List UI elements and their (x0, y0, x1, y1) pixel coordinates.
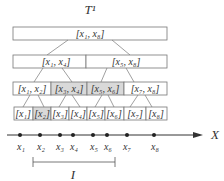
leaf-label: [x₅] (88, 108, 104, 119)
segment-tree-diagram: T¹ [x₁, x₈] [x₁, x₄] [x₅, x₈] [x₁, x₂] [… (0, 0, 224, 181)
point-label: x₁ (16, 141, 25, 152)
leaf-label: [x₄] (70, 108, 86, 119)
axis-label: X (210, 127, 220, 142)
tree-edge (95, 95, 102, 107)
leaf-label: [x₁] (15, 108, 31, 119)
tree-edge (34, 68, 43, 82)
axis-arrow-icon (193, 132, 203, 138)
tree-edge (145, 95, 152, 107)
point-label: x₂ (36, 141, 45, 152)
node-label: [x₅, x₆] (91, 83, 120, 94)
tree-title: T¹ (84, 2, 95, 17)
node-label: [x₁, x₈] (76, 28, 105, 39)
tree-edge (101, 68, 107, 82)
tree-edge (112, 40, 130, 55)
point-label: x₄ (69, 141, 78, 152)
tree-edge (130, 95, 138, 107)
tree-edge (47, 40, 68, 55)
interval-label: I (70, 167, 76, 181)
tree-edge (108, 95, 114, 107)
point-label: x₇ (122, 141, 131, 152)
point-label: x₃ (55, 141, 64, 152)
tree-edge (126, 68, 134, 82)
leaf-label: [x₇] (127, 108, 143, 119)
leaf-label: [x₂] (34, 108, 50, 119)
leaf-label: [x₃] (52, 108, 68, 119)
point-label: x₈ (150, 141, 159, 152)
node-label: [x₁, x₂] (18, 83, 47, 94)
node-label: [x₁, x₄] (42, 56, 71, 67)
node-label: [x₃, x₄] (55, 83, 84, 94)
node-label: [x₅, x₈] (112, 56, 141, 67)
node-label: [x₇, x₈] (131, 83, 160, 94)
interval (33, 157, 115, 167)
point-label: x₅ (89, 141, 98, 152)
leaf-label: [x₈] (148, 108, 164, 119)
tree-edge (23, 95, 30, 107)
tree-edge (62, 68, 72, 82)
tree-edge (38, 95, 44, 107)
tree-edge (59, 95, 66, 107)
leaf-label: [x₆] (106, 108, 122, 119)
tree-edge (72, 95, 80, 107)
point-label: x₆ (103, 141, 112, 152)
